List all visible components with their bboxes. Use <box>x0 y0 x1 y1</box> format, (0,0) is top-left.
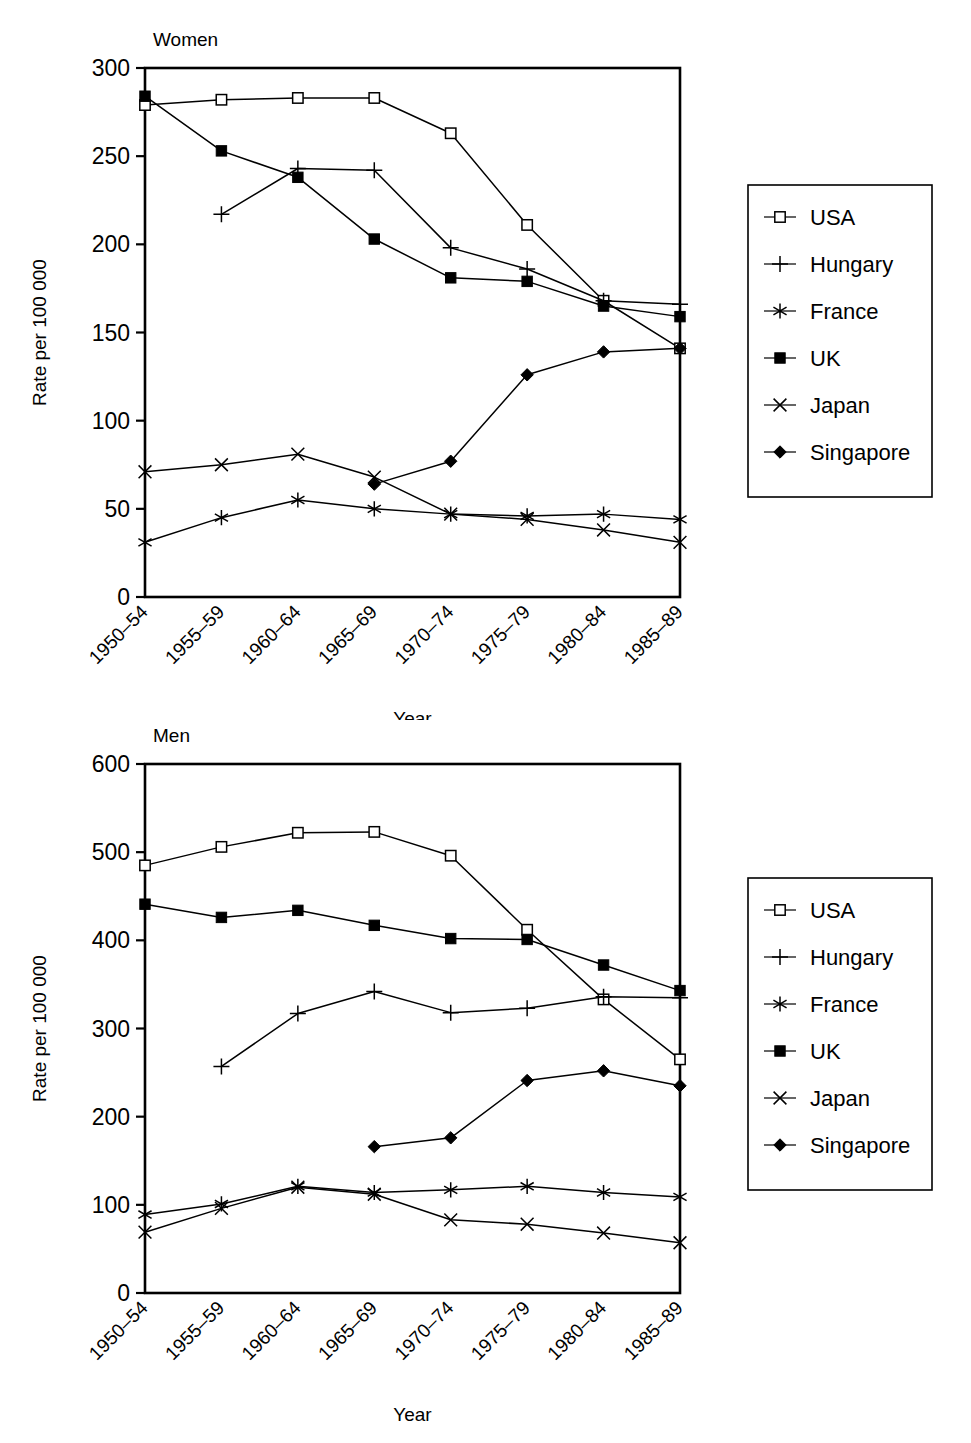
legend-item-japan[interactable]: Japan <box>764 393 870 418</box>
y-tick-label: 250 <box>92 143 130 169</box>
marker-open-square-legend <box>775 905 785 915</box>
series-hungary <box>213 161 688 313</box>
series-line <box>145 500 680 542</box>
marker-open-square-3 <box>369 93 379 103</box>
marker-open-square-2 <box>293 93 303 103</box>
y-tick-label: 0 <box>117 584 130 610</box>
marker-open-square-4 <box>446 850 456 860</box>
y-tick-label: 200 <box>92 1104 130 1130</box>
marker-solid-square-0 <box>140 91 150 101</box>
marker-plus-5 <box>519 261 535 277</box>
y-tick-label: 300 <box>92 1016 130 1042</box>
x-tick-label: 1950–54 <box>85 601 152 668</box>
marker-plus-4 <box>443 1005 459 1021</box>
marker-asterisk-1 <box>215 510 228 525</box>
series-line <box>221 169 680 305</box>
marker-plus-5 <box>519 1000 535 1016</box>
x-tick-label: 1985–89 <box>620 1297 687 1364</box>
legend-item-france[interactable]: France <box>764 299 878 324</box>
legend-item-label: Singapore <box>810 1133 910 1158</box>
legend-item-label: Japan <box>810 1086 870 1111</box>
legend-item-label: Hungary <box>810 945 893 970</box>
legend-item-hungary[interactable]: Hungary <box>764 252 893 277</box>
marker-solid-square-legend <box>775 353 785 363</box>
marker-solid-square-0 <box>140 899 150 909</box>
marker-solid-diamond-legend <box>774 1139 786 1151</box>
y-axis: 0100200300400500600 <box>92 751 145 1306</box>
y-tick-label: 500 <box>92 839 130 865</box>
marker-solid-diamond-4 <box>445 1132 457 1144</box>
legend-item-uk[interactable]: UK <box>764 1039 841 1064</box>
marker-solid-square-7 <box>675 311 685 321</box>
x-tick-label: 1975–79 <box>467 1297 534 1364</box>
marker-plus-3 <box>366 983 382 999</box>
marker-open-square-legend <box>775 212 785 222</box>
marker-plus-legend <box>772 949 788 965</box>
x-tick-label: 1955–59 <box>161 1297 228 1364</box>
x-tick-label: 1960–64 <box>238 1297 305 1364</box>
y-axis-title: Rate per 100 000 <box>29 259 50 406</box>
chart-svg-men: Men0100200300400500600Rate per 100 00019… <box>0 715 971 1443</box>
legend-item-japan[interactable]: Japan <box>764 1086 870 1111</box>
panel-title: Women <box>153 29 218 50</box>
legend-item-france[interactable]: France <box>764 992 878 1017</box>
x-tick-label: 1955–59 <box>161 601 228 668</box>
marker-solid-square-4 <box>446 273 456 283</box>
x-tick-label: 1985–89 <box>620 601 687 668</box>
legend-item-uk[interactable]: UK <box>764 346 841 371</box>
marker-open-square-3 <box>369 827 379 837</box>
marker-plus-1 <box>213 1058 229 1074</box>
legend-item-label: UK <box>810 1039 841 1064</box>
marker-open-square-7 <box>675 1054 685 1064</box>
marker-solid-square-4 <box>446 933 456 943</box>
chart-panel-men: Men0100200300400500600Rate per 100 00019… <box>0 715 971 1443</box>
x-tick-label: 1950–54 <box>85 1297 152 1364</box>
marker-solid-diamond-5 <box>521 1074 533 1086</box>
legend-item-label: USA <box>810 898 856 923</box>
marker-plus-legend <box>772 256 788 272</box>
marker-solid-square-1 <box>216 146 226 156</box>
y-tick-label: 50 <box>104 496 130 522</box>
series-line <box>145 96 680 316</box>
marker-plus-7 <box>672 296 688 312</box>
series-uk <box>140 899 685 996</box>
figure-page: Women050100150200250300Rate per 100 0001… <box>0 0 971 1443</box>
series-singapore <box>368 342 686 490</box>
legend-item-hungary[interactable]: Hungary <box>764 945 893 970</box>
marker-open-square-1 <box>216 842 226 852</box>
x-tick-label: 1965–69 <box>314 601 381 668</box>
y-tick-label: 600 <box>92 751 130 777</box>
marker-open-square-1 <box>216 95 226 105</box>
x-tick-label: 1960–64 <box>238 601 305 668</box>
chart-svg-women: Women050100150200250300Rate per 100 0001… <box>0 0 971 720</box>
series-singapore <box>368 1065 686 1153</box>
marker-open-square-5 <box>522 925 532 935</box>
marker-solid-square-3 <box>369 234 379 244</box>
y-tick-label: 400 <box>92 927 130 953</box>
legend-item-singapore[interactable]: Singapore <box>764 1133 910 1158</box>
marker-solid-diamond-legend <box>774 446 786 458</box>
x-tick-label: 1975–79 <box>467 601 534 668</box>
chart-panel-women: Women050100150200250300Rate per 100 0001… <box>0 0 971 720</box>
marker-open-square-4 <box>446 128 456 138</box>
legend-item-label: France <box>810 992 878 1017</box>
legend-item-singapore[interactable]: Singapore <box>764 440 910 465</box>
marker-solid-square-1 <box>216 912 226 922</box>
series-line <box>145 454 680 542</box>
marker-solid-square-2 <box>293 172 303 182</box>
marker-asterisk-0 <box>138 535 151 550</box>
legend-item-label: UK <box>810 346 841 371</box>
legend-item-usa[interactable]: USA <box>764 205 856 230</box>
panel-title: Men <box>153 725 190 746</box>
marker-solid-square-2 <box>293 905 303 915</box>
x-tick-label: 1970–74 <box>390 1297 457 1364</box>
legend-item-usa[interactable]: USA <box>764 898 856 923</box>
marker-solid-square-6 <box>598 301 608 311</box>
x-axis: 1950–541955–591960–641965–691970–741975–… <box>85 601 687 668</box>
marker-solid-square-5 <box>522 276 532 286</box>
y-tick-label: 100 <box>92 1192 130 1218</box>
y-tick-label: 300 <box>92 55 130 81</box>
legend-item-label: Hungary <box>810 252 893 277</box>
series-line <box>221 991 680 1066</box>
y-tick-label: 200 <box>92 231 130 257</box>
